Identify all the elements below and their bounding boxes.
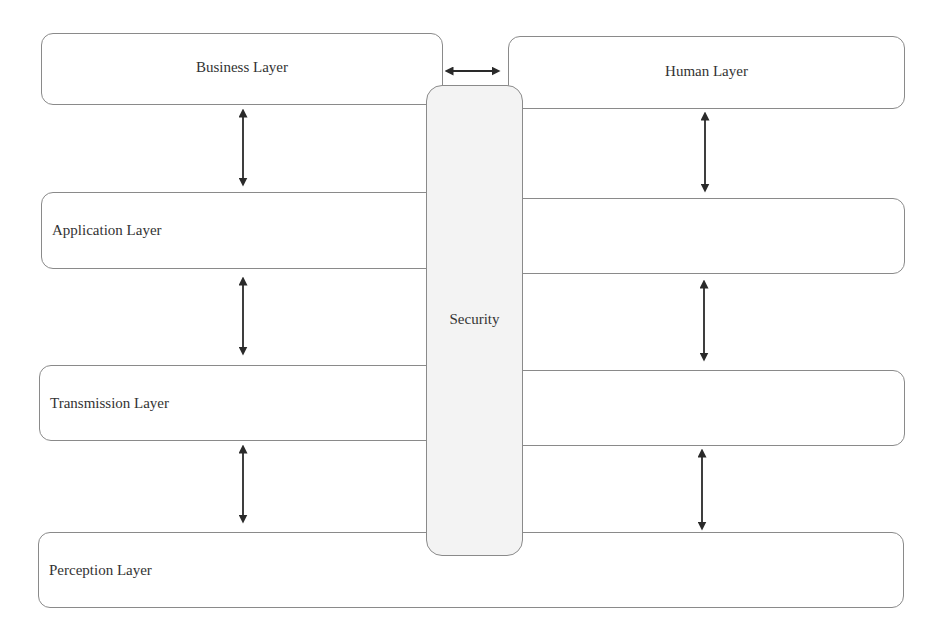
connection-arrows [0,0,945,641]
